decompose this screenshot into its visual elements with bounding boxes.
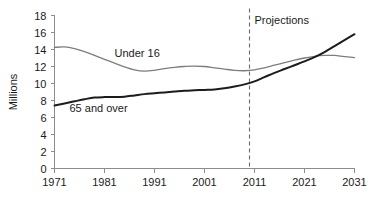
series-layer — [55, 34, 355, 105]
x-tick-label: 1981 — [92, 176, 116, 188]
x-tick-label: 1991 — [142, 176, 166, 188]
y-tick-label: 0 — [40, 163, 46, 175]
y-tick-label: 16 — [34, 27, 46, 39]
y-tick-label: 6 — [40, 112, 46, 124]
series-label-under-16: Under 16 — [115, 47, 160, 59]
x-tick-label: 2001 — [192, 176, 216, 188]
y-tick-label: 8 — [40, 95, 46, 107]
x-tick-label: 2021 — [292, 176, 316, 188]
chart-canvas: 024681012141618 Millions 197119811991200… — [0, 0, 371, 201]
projections-label: Projections — [255, 14, 310, 26]
y-axis-ticks: 024681012141618 — [34, 10, 54, 175]
x-tick-label: 1971 — [42, 176, 66, 188]
annotation-layer: Projections — [250, 9, 310, 169]
y-tick-label: 4 — [40, 129, 46, 141]
y-tick-label: 2 — [40, 146, 46, 158]
y-axis-group: 024681012141618 Millions — [7, 10, 55, 175]
y-tick-label: 10 — [34, 78, 46, 90]
y-tick-label: 12 — [34, 61, 46, 73]
x-axis-ticks: 1971198119912001201120212031 — [42, 169, 366, 188]
x-tick-label: 2011 — [243, 176, 267, 188]
x-axis-group: 1971198119912001201120212031 — [42, 169, 366, 188]
x-tick-label: 2031 — [342, 176, 366, 188]
population-projection-chart: 024681012141618 Millions 197119811991200… — [0, 0, 371, 201]
y-tick-label: 18 — [34, 10, 46, 22]
y-axis-title: Millions — [7, 73, 19, 110]
series-label-65-and-over: 65 and over — [70, 102, 128, 114]
series-label-layer: Under 1665 and over — [70, 47, 160, 114]
series-line-65-and-over — [55, 34, 355, 105]
y-tick-label: 14 — [34, 44, 46, 56]
